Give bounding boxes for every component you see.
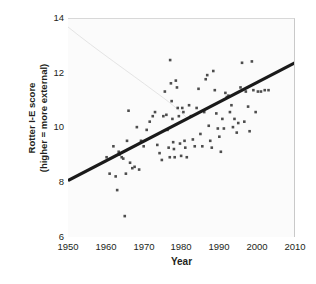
scatter-point xyxy=(108,172,111,175)
x-tick-label: 1970 xyxy=(124,241,164,252)
scatter-point xyxy=(221,118,224,121)
scatter-point xyxy=(239,86,242,89)
scatter-point xyxy=(170,82,173,85)
scatter-point xyxy=(170,100,173,103)
scatter-point xyxy=(218,135,221,138)
scatter-point xyxy=(122,157,125,160)
scatter-point xyxy=(167,146,170,149)
scatter-point xyxy=(252,89,255,92)
scatter-point xyxy=(129,161,132,164)
scatter-point xyxy=(251,60,254,63)
scatter-point xyxy=(114,175,117,178)
scatter-chart-figure: 14 12 10 8 6 1950 1960 1970 1980 1990 20… xyxy=(0,0,316,284)
scatter-point xyxy=(184,146,187,149)
scatter-point xyxy=(257,90,260,93)
scatter-point xyxy=(237,122,240,125)
x-tick-label: 1990 xyxy=(199,241,239,252)
plot-svg xyxy=(68,19,295,237)
scatter-point xyxy=(131,167,134,170)
scatter-point xyxy=(186,156,189,159)
scatter-point xyxy=(161,159,164,162)
page-artifact-line xyxy=(68,27,186,117)
scatter-point xyxy=(127,109,130,112)
y-axis-title-line-1: Rotter I-E score xyxy=(26,8,38,228)
scatter-point xyxy=(215,112,218,115)
plot-area xyxy=(68,18,295,237)
scatter-point xyxy=(245,90,248,93)
scatter-point xyxy=(247,105,250,108)
scatter-point xyxy=(195,107,198,110)
scatter-point xyxy=(224,92,227,95)
scatter-point xyxy=(192,138,195,141)
scatter-point xyxy=(263,89,266,92)
scatter-point xyxy=(105,156,108,159)
scatter-point xyxy=(212,70,215,73)
scatter-point xyxy=(151,115,154,118)
x-tick-label: 2010 xyxy=(275,241,315,252)
x-tick-label: 2000 xyxy=(237,241,277,252)
scatter-point xyxy=(248,130,251,133)
scatter-point xyxy=(156,144,159,147)
scatter-point xyxy=(241,62,244,65)
scatter-point xyxy=(136,126,139,129)
scatter-point xyxy=(162,115,165,118)
x-axis-ticks: 1950 1960 1970 1980 1990 2000 2010 xyxy=(0,241,316,255)
scatter-point xyxy=(168,156,171,159)
scatter-point xyxy=(201,145,204,148)
scatter-point xyxy=(197,88,200,91)
scatter-point xyxy=(207,124,210,127)
scatter-point xyxy=(179,142,182,145)
scatter-point xyxy=(158,152,161,155)
scatter-point xyxy=(138,168,141,171)
scatter-point xyxy=(199,133,202,136)
y-axis-title: Rotter I-E score (higher = more external… xyxy=(26,8,50,228)
scatter-point xyxy=(176,107,179,110)
scatter-point xyxy=(229,111,232,114)
scatter-point xyxy=(175,79,178,82)
y-axis-title-line-2: (higher = more external) xyxy=(38,8,50,228)
scatter-point xyxy=(164,90,167,93)
scatter-point xyxy=(173,156,176,159)
scatter-point xyxy=(243,120,246,123)
scatter-point xyxy=(165,114,168,117)
scatter-point xyxy=(213,89,216,92)
scatter-point xyxy=(183,140,186,143)
scatter-point xyxy=(169,59,172,62)
scatter-point xyxy=(235,131,238,134)
scatter-point xyxy=(204,78,207,81)
scatter-point xyxy=(123,215,126,218)
trend-line xyxy=(68,63,295,181)
scatter-point xyxy=(193,145,196,148)
scatter-point xyxy=(145,129,148,132)
scatter-point xyxy=(267,89,270,92)
scatter-point xyxy=(232,126,235,129)
scatter-point xyxy=(233,118,236,121)
scatter-point xyxy=(172,141,175,144)
scatter-point xyxy=(206,74,209,77)
x-tick-label: 1960 xyxy=(86,241,126,252)
scatter-point xyxy=(142,145,145,148)
scatter-point xyxy=(188,104,191,107)
scatter-point xyxy=(220,150,223,153)
scatter-point xyxy=(176,86,179,89)
scatter-point xyxy=(125,172,128,175)
scatter-point xyxy=(182,111,185,114)
scatter-point xyxy=(173,148,176,151)
scatter-point xyxy=(112,145,115,148)
scatter-point xyxy=(126,140,129,143)
scatter-point xyxy=(133,166,136,169)
scatter-point xyxy=(116,189,119,192)
scatter-point xyxy=(210,146,213,149)
scatter-point xyxy=(223,127,226,130)
scatter-points-layer xyxy=(105,59,270,218)
scatter-point xyxy=(171,118,174,121)
scatter-point xyxy=(181,107,184,110)
x-tick-label: 1950 xyxy=(48,241,88,252)
scatter-point xyxy=(178,115,181,118)
x-tick-label: 1980 xyxy=(161,241,201,252)
scatter-point xyxy=(180,155,183,158)
scatter-point xyxy=(230,104,233,107)
x-axis-title: Year xyxy=(68,256,295,267)
scatter-point xyxy=(260,90,263,93)
scatter-point xyxy=(217,127,220,130)
